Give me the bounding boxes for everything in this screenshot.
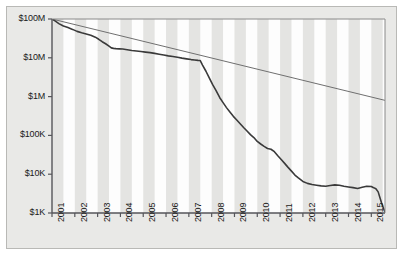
- x-tick-label: 2001: [56, 203, 66, 222]
- x-tick-label: 2012: [307, 203, 317, 222]
- year-band: [212, 19, 223, 213]
- x-tick-label: 2005: [147, 203, 157, 222]
- x-tick-label: 2014: [353, 203, 363, 222]
- x-tick-label: 2011: [284, 203, 294, 222]
- x-tick-label: 2002: [79, 203, 89, 222]
- x-tick-label: 2010: [261, 203, 271, 222]
- year-band: [189, 19, 200, 213]
- y-tick-label: $10M: [23, 52, 45, 62]
- year-band: [143, 19, 154, 213]
- x-tick-label: 2006: [170, 203, 180, 222]
- x-tick-label: 2003: [102, 203, 112, 222]
- y-tick-label: $1K: [30, 207, 45, 217]
- year-band: [52, 19, 63, 213]
- x-tick-label: 2015: [375, 203, 385, 222]
- y-tick-label: $100M: [18, 13, 45, 23]
- year-band: [349, 19, 360, 213]
- year-band: [98, 19, 109, 213]
- year-bands: [52, 19, 383, 213]
- x-tick-label: 2009: [238, 203, 248, 222]
- x-tick-label: 2008: [216, 203, 226, 222]
- year-band: [75, 19, 86, 213]
- y-tick-label: $10K: [25, 168, 45, 178]
- year-band: [326, 19, 337, 213]
- y-tick-label: $100K: [20, 129, 45, 139]
- year-band: [257, 19, 268, 213]
- chart-container: $100M$10M$1M$100K$10K$1K 200120022003200…: [0, 0, 405, 260]
- year-band: [371, 19, 382, 213]
- x-tick-label: 2013: [330, 203, 340, 222]
- year-band: [120, 19, 131, 213]
- x-tick-label: 2004: [124, 203, 134, 222]
- x-tick-label: 2007: [193, 203, 203, 222]
- y-tick-label: $1M: [28, 91, 45, 101]
- year-band: [280, 19, 291, 213]
- year-band: [234, 19, 245, 213]
